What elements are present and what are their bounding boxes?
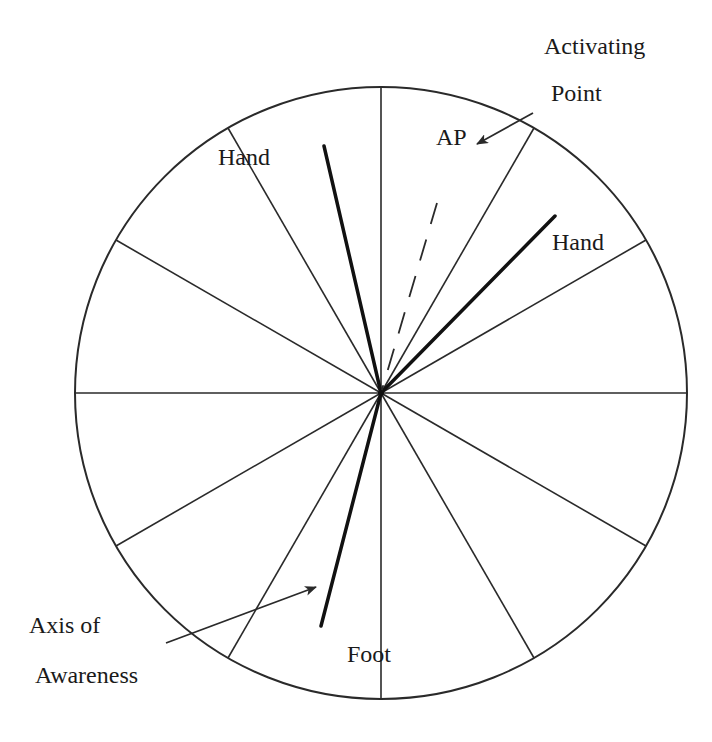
spoke-240 — [228, 393, 381, 658]
awareness-wheel-diagram — [0, 0, 712, 742]
axis-of-awareness-line — [321, 393, 381, 626]
left-hand-line — [324, 146, 381, 393]
spoke-30 — [381, 240, 646, 393]
label-awareness: Awareness — [35, 663, 138, 687]
label-axis-of: Axis of — [29, 613, 100, 637]
activating-point-arrow-icon — [477, 113, 533, 144]
spoke-300 — [381, 393, 534, 658]
label-activating: Activating — [544, 34, 645, 58]
label-hand-right: Hand — [552, 230, 604, 254]
label-hand-left: Hand — [218, 145, 270, 169]
spoke-210 — [116, 393, 381, 546]
label-ap: AP — [436, 125, 467, 149]
center-point — [378, 390, 384, 396]
label-point: Point — [551, 81, 602, 105]
spoke-330 — [381, 393, 646, 546]
spoke-150 — [116, 240, 381, 393]
label-foot: Foot — [347, 642, 391, 666]
